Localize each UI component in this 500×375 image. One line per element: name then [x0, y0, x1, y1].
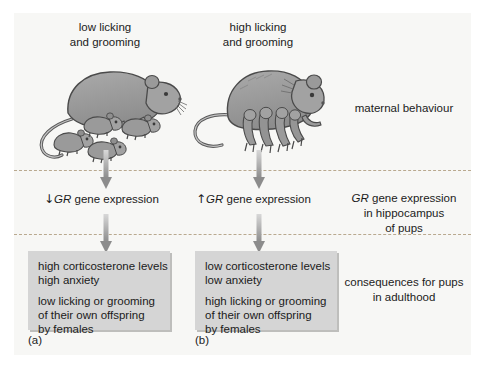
band-divider-maternal-gene [14, 170, 471, 171]
outcome-line: high licking or grooming [205, 294, 337, 308]
gene-expression-text-right: gene expression [223, 193, 311, 205]
band-label-consequences: consequences for pups in adulthood [338, 275, 470, 305]
outcome-box-high-licking: low corticosterone levels low anxiety hi… [195, 251, 337, 330]
panel-caption-b: (b) [195, 334, 209, 346]
panel-caption-a: (a) [28, 334, 42, 346]
arrow-gene-to-consequences-right [252, 214, 266, 254]
band-label-gene-expression-text: gene expression in hippocampus of pups [364, 192, 457, 234]
gene-expression-label-right: ↑GR gene expression [196, 192, 311, 207]
arrow-maternal-to-gene-left [99, 150, 113, 190]
gene-expression-label-left: ↓GR gene expression [44, 192, 159, 207]
band-label-gene-symbol: GR [352, 192, 369, 204]
band-label-maternal-behaviour: maternal behaviour [338, 101, 470, 116]
arrow-gene-to-consequences-left [99, 214, 113, 254]
gene-symbol-left: GR [54, 193, 71, 205]
gene-expression-direction-up-icon: ↑ [196, 192, 206, 206]
outcome-line: high anxiety [38, 273, 170, 287]
arrow-maternal-to-gene-right [252, 150, 266, 190]
gene-symbol-right: GR [206, 193, 223, 205]
outcome-box-low-licking: high corticosterone levels high anxiety … [28, 251, 170, 330]
outcome-line: low licking or grooming [38, 294, 170, 308]
column-heading-high-licking: high licking and grooming [193, 20, 323, 50]
outcome-line: by females [205, 322, 337, 336]
diagram-figure: low licking and grooming high licking an… [0, 0, 500, 375]
outcome-line: low anxiety [205, 273, 337, 287]
band-label-gene-expression: GR gene expression in hippocampus of pup… [338, 176, 470, 236]
outcome-line: low corticosterone levels [205, 259, 337, 273]
outcome-line: of their own offspring [38, 308, 170, 322]
outcome-line: high corticosterone levels [38, 259, 170, 273]
outcome-line: by females [38, 322, 170, 336]
gene-expression-direction-down-icon: ↓ [44, 192, 54, 206]
outcome-line: of their own offspring [205, 308, 337, 322]
gene-expression-text-left: gene expression [71, 193, 159, 205]
column-heading-low-licking: low licking and grooming [40, 20, 170, 50]
